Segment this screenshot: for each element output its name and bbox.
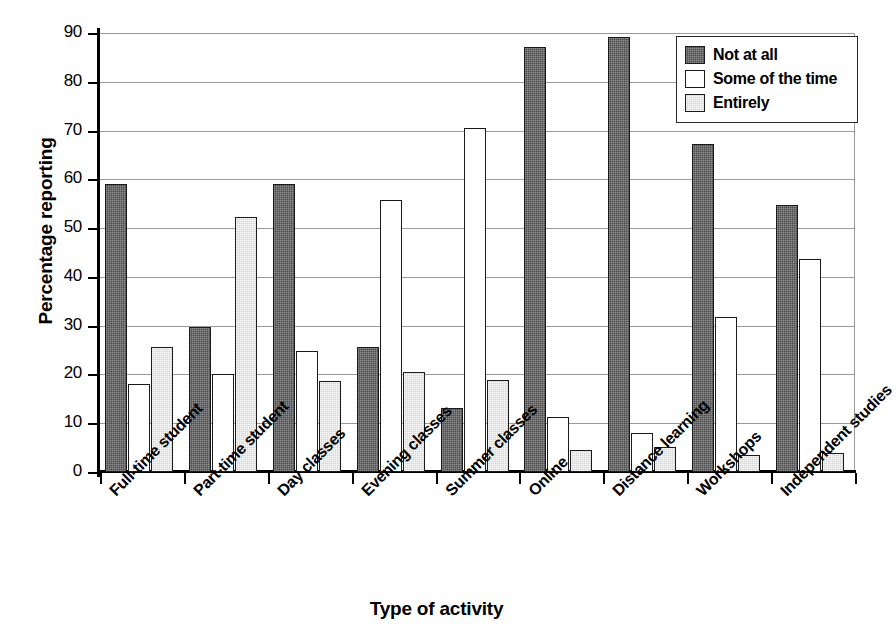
bar <box>799 259 821 472</box>
x-axis-tick <box>184 473 186 484</box>
y-axis-tick-label: 40 <box>40 266 82 286</box>
y-axis-tick-label: 70 <box>40 120 82 140</box>
y-axis-tick-label: 10 <box>40 412 82 432</box>
bar <box>776 205 798 472</box>
legend-label: Entirely <box>713 94 769 112</box>
x-axis-tick <box>855 473 857 484</box>
legend-item: Not at all <box>685 43 849 67</box>
y-axis-tick-label: 90 <box>40 22 82 42</box>
legend-label: Some of the time <box>713 70 837 88</box>
bar <box>357 347 379 472</box>
bar <box>464 128 486 472</box>
bar <box>105 184 127 472</box>
bar <box>380 200 402 472</box>
x-axis-tick <box>268 473 270 484</box>
legend-item: Entirely <box>685 91 849 115</box>
y-axis-tick-label: 50 <box>40 217 82 237</box>
y-axis-tick-label: 0 <box>40 461 82 481</box>
legend: Not at allSome of the timeEntirely <box>676 36 858 123</box>
x-axis-tick <box>687 473 689 484</box>
bar <box>273 184 295 472</box>
x-axis-tick <box>603 473 605 484</box>
y-axis-tick-label: 30 <box>40 315 82 335</box>
x-axis-title: Type of activity <box>0 598 873 620</box>
y-axis-tick-label: 60 <box>40 168 82 188</box>
legend-swatch <box>685 94 705 112</box>
legend-item: Some of the time <box>685 67 849 91</box>
y-axis-tick-label: 20 <box>40 363 82 383</box>
x-axis-tick <box>100 473 102 484</box>
x-axis-tick <box>352 473 354 484</box>
x-axis-tick <box>519 473 521 484</box>
y-axis-tick-label: 80 <box>40 71 82 91</box>
y-axis-tick-labels: 0102030405060708090 <box>20 0 82 500</box>
bar <box>608 37 630 472</box>
legend-swatch <box>685 70 705 88</box>
x-axis-tick <box>436 473 438 484</box>
bar <box>570 450 592 472</box>
x-axis-tick <box>771 473 773 484</box>
legend-label: Not at all <box>713 46 778 64</box>
legend-swatch <box>685 46 705 64</box>
